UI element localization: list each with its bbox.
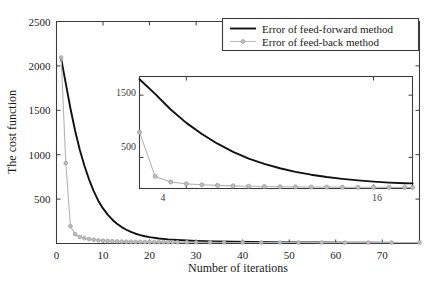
y-tick-label: 1000 xyxy=(29,149,52,161)
marker xyxy=(278,241,282,245)
inset-y-tick-label-bottom: 500 xyxy=(121,141,136,152)
marker xyxy=(325,185,329,189)
marker xyxy=(185,240,189,244)
legend: Error of feed-forward method Error of fe… xyxy=(223,19,419,51)
marker xyxy=(278,185,282,189)
x-tick-label: 60 xyxy=(330,249,342,261)
marker xyxy=(137,130,141,134)
marker xyxy=(169,180,173,184)
marker xyxy=(157,240,161,244)
marker xyxy=(390,241,394,245)
marker xyxy=(166,240,170,244)
legend-marker-feed-back xyxy=(241,40,245,44)
marker xyxy=(96,238,100,242)
inset-x-tick-label-left: 4 xyxy=(161,192,166,203)
x-tick-label: 40 xyxy=(237,249,249,261)
chart-figure: 010203040506070 5001000150020002500 Numb… xyxy=(0,0,433,295)
marker xyxy=(222,241,226,245)
marker xyxy=(78,235,82,239)
marker xyxy=(138,240,142,244)
marker xyxy=(148,240,152,244)
marker xyxy=(371,185,375,189)
marker xyxy=(59,56,63,60)
x-tick-label: 30 xyxy=(191,249,203,261)
marker xyxy=(115,239,119,243)
marker xyxy=(262,184,266,188)
marker xyxy=(340,185,344,189)
marker xyxy=(171,240,175,244)
marker xyxy=(343,241,347,245)
legend-label-feed-forward: Error of feed-forward method xyxy=(262,23,394,35)
marker xyxy=(259,241,263,245)
marker xyxy=(208,240,212,244)
cost-function-chart: 010203040506070 5001000150020002500 Numb… xyxy=(0,0,433,295)
marker xyxy=(101,239,105,243)
inset-axes-frame xyxy=(140,77,413,189)
inset-x-tick-label-right: 16 xyxy=(372,192,382,203)
marker xyxy=(83,236,87,240)
marker xyxy=(410,185,414,189)
marker xyxy=(403,185,407,189)
y-tick-label: 2000 xyxy=(29,60,52,72)
marker xyxy=(64,161,68,165)
marker xyxy=(129,240,133,244)
x-tick-label: 10 xyxy=(98,249,110,261)
x-tick-label: 20 xyxy=(144,249,156,261)
marker xyxy=(152,240,156,244)
marker xyxy=(320,241,324,245)
y-tick-label: 500 xyxy=(34,193,51,205)
y-tick-labels: 5001000150020002500 xyxy=(29,16,52,206)
marker xyxy=(293,185,297,189)
marker xyxy=(231,184,235,188)
marker xyxy=(153,174,157,178)
x-tick-labels: 010203040506070 xyxy=(54,249,389,261)
marker xyxy=(215,183,219,187)
marker xyxy=(241,241,245,245)
marker xyxy=(73,232,77,236)
marker xyxy=(134,240,138,244)
x-tick-label: 50 xyxy=(284,249,296,261)
marker xyxy=(309,185,313,189)
marker xyxy=(184,182,188,186)
marker xyxy=(200,183,204,187)
marker xyxy=(87,237,91,241)
marker xyxy=(69,224,73,228)
marker xyxy=(366,241,370,245)
marker xyxy=(297,241,301,245)
inset-panel: 1500 500 4 16 xyxy=(116,77,415,204)
marker xyxy=(247,184,251,188)
y-tick-label: 1500 xyxy=(29,104,52,116)
y-tick-label: 2500 xyxy=(29,16,52,28)
marker xyxy=(92,238,96,242)
marker xyxy=(162,240,166,244)
inset-y-tick-label-top: 1500 xyxy=(116,87,136,98)
marker xyxy=(120,240,124,244)
marker xyxy=(106,239,110,243)
marker xyxy=(124,240,128,244)
x-tick-label: 0 xyxy=(54,249,60,261)
y-axis-title: The cost function xyxy=(5,90,19,174)
marker xyxy=(387,185,391,189)
marker xyxy=(110,239,114,243)
x-tick-label: 70 xyxy=(377,249,389,261)
marker xyxy=(356,185,360,189)
x-axis-title: Number of iterations xyxy=(188,261,288,275)
marker xyxy=(143,240,147,244)
marker xyxy=(194,240,198,244)
legend-label-feed-back: Error of feed-back method xyxy=(262,36,379,48)
marker xyxy=(176,240,180,244)
marker xyxy=(418,241,422,245)
